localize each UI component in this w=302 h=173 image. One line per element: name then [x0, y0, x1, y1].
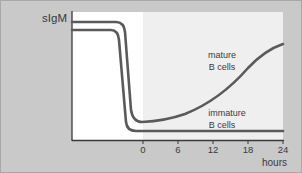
x-tick-labels: 0 6 12 18 24 [140, 144, 288, 155]
y-axis-label: sIgM [42, 12, 67, 24]
tick-label-24: 24 [278, 144, 289, 155]
mature-label-line1: mature [208, 50, 236, 60]
tick-label-0: 0 [140, 144, 145, 155]
mature-label-line2: B cells [209, 62, 236, 72]
x-axis-label: hours [262, 157, 287, 168]
chart-svg: sIgM mature B cells immature B cells 0 6… [0, 0, 302, 173]
immature-label-line1: immature [208, 108, 246, 118]
tick-label-18: 18 [243, 144, 254, 155]
tick-label-12: 12 [208, 144, 219, 155]
immature-label-line2: B cells [209, 120, 236, 130]
tick-label-6: 6 [175, 144, 180, 155]
